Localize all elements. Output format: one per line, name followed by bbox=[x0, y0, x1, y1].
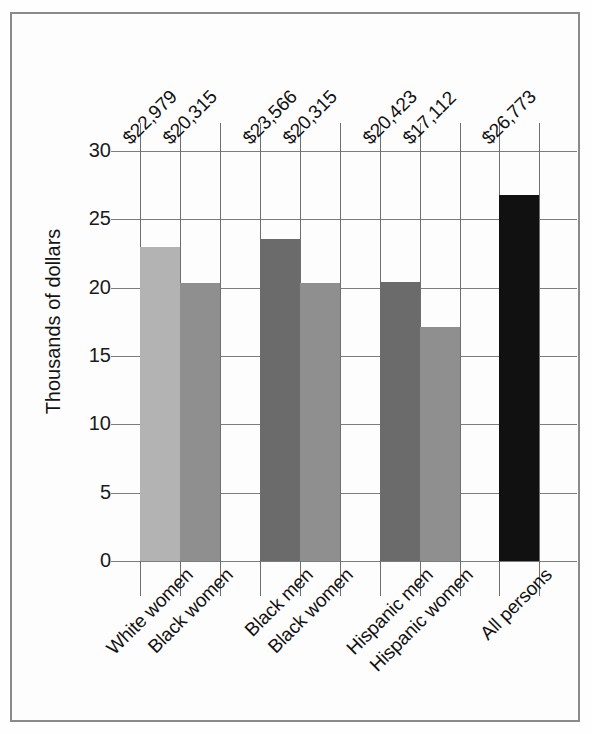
plot-area bbox=[125, 151, 577, 561]
bar-3[interactable] bbox=[300, 283, 340, 561]
y-tick-label-20: 20 bbox=[67, 277, 111, 297]
bar-5[interactable] bbox=[420, 327, 460, 561]
bar-4[interactable] bbox=[380, 282, 420, 561]
y-tick-mark-0 bbox=[111, 561, 125, 562]
y-tick-mark-30 bbox=[111, 151, 125, 152]
value-label-6: $26,773 bbox=[477, 86, 540, 149]
bar-0[interactable] bbox=[140, 247, 180, 561]
y-tick-label-25: 25 bbox=[67, 208, 111, 228]
gridline-y-0 bbox=[125, 561, 577, 562]
y-tick-mark-25 bbox=[111, 219, 125, 220]
bar-1[interactable] bbox=[180, 283, 220, 561]
y-tick-mark-20 bbox=[111, 288, 125, 289]
y-axis-tick-labels: 051015202530 bbox=[61, 151, 111, 561]
y-tick-label-30: 30 bbox=[67, 140, 111, 160]
y-tick-mark-5 bbox=[111, 493, 125, 494]
gridline-x-2 bbox=[220, 123, 221, 596]
y-tick-label-5: 5 bbox=[67, 482, 111, 502]
chart-frame: Thousands of dollars 051015202530 $22,97… bbox=[10, 12, 580, 722]
bar-2[interactable] bbox=[260, 239, 300, 561]
y-axis-tick-marks bbox=[111, 151, 125, 561]
bar-6[interactable] bbox=[499, 195, 539, 561]
y-tick-label-15: 15 bbox=[67, 345, 111, 365]
y-tick-label-10: 10 bbox=[67, 413, 111, 433]
y-tick-mark-15 bbox=[111, 356, 125, 357]
y-tick-mark-10 bbox=[111, 424, 125, 425]
chart-figure: Thousands of dollars 051015202530 $22,97… bbox=[0, 0, 592, 734]
gridline-y-30 bbox=[125, 151, 577, 152]
gridline-x-10 bbox=[539, 123, 540, 596]
gridline-x-8 bbox=[460, 123, 461, 596]
gridline-x-5 bbox=[340, 123, 341, 596]
y-tick-label-0: 0 bbox=[67, 550, 111, 570]
